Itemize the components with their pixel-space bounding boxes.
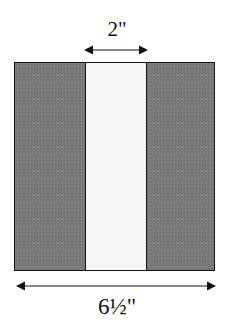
total-width-label: 6½"	[82, 294, 152, 320]
center-width-label: 2"	[92, 18, 142, 40]
total-width-arrow	[16, 280, 216, 292]
left-dark-strip	[15, 63, 85, 270]
right-dark-strip	[147, 63, 214, 270]
center-light-strip	[85, 63, 147, 270]
center-width-arrow	[84, 44, 148, 56]
quilt-block-square	[14, 62, 215, 271]
